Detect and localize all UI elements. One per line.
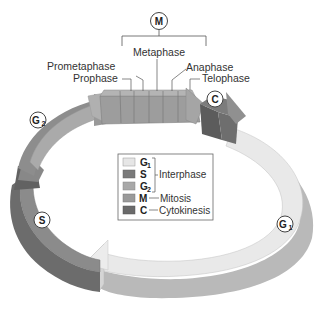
legend-swatch-g1: [123, 158, 135, 166]
legend-mitosis: Mitosis: [160, 193, 191, 204]
cell-cycle-diagram: M Metaphase Prometaphase Prophase Anapha…: [0, 0, 318, 310]
label-prometaphase: Prometaphase: [47, 60, 115, 72]
legend-swatch-g2: [123, 182, 135, 190]
legend: G 1 S G 2 Interphase M Mitosis C Cytokin…: [118, 154, 213, 220]
svg-text:S: S: [39, 215, 46, 226]
legend-swatch-m: [123, 194, 135, 202]
m-segment: [100, 88, 204, 124]
legend-key-c: C: [140, 205, 147, 216]
svg-text:C: C: [211, 94, 218, 105]
label-metaphase: Metaphase: [133, 46, 185, 58]
label-telophase: Telophase: [202, 72, 250, 84]
svg-text:2: 2: [147, 186, 151, 193]
svg-text:G: G: [279, 219, 287, 230]
m-badge: M: [155, 16, 163, 27]
svg-text:G: G: [32, 115, 40, 126]
badge-s: S: [34, 212, 50, 228]
legend-key-m: M: [139, 193, 147, 204]
s-segment: [10, 158, 100, 292]
mitosis-labels: M Metaphase Prometaphase Prophase Anapha…: [47, 13, 250, 92]
badge-g1: G 1: [277, 216, 293, 232]
label-prophase: Prophase: [73, 72, 118, 84]
badge-c: C: [207, 91, 223, 107]
svg-text:2: 2: [42, 120, 46, 127]
svg-text:1: 1: [147, 162, 151, 169]
legend-interphase: Interphase: [159, 169, 207, 180]
svg-text:1: 1: [289, 224, 293, 231]
badge-g2: G 2: [30, 112, 46, 128]
legend-cytokinesis: Cytokinesis: [159, 205, 210, 216]
legend-key-s: S: [140, 169, 147, 180]
legend-swatch-s: [123, 170, 135, 178]
legend-swatch-c: [123, 206, 135, 214]
